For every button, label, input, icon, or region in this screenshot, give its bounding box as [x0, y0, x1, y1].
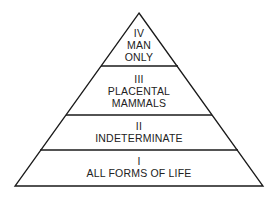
tier-2-label: II INDETERMINATE — [95, 120, 183, 144]
tier-3-numeral: III — [108, 73, 170, 85]
tier-3-line-1: PLACENTAL — [108, 85, 170, 97]
tier-3-line-2: MAMMALS — [108, 97, 170, 109]
tier-1-line-1: ALL FORMS OF LIFE — [86, 167, 191, 179]
tier-1-label: I ALL FORMS OF LIFE — [86, 155, 191, 179]
tier-3-label: III PLACENTAL MAMMALS — [108, 73, 170, 109]
tier-4-line-2: ONLY — [125, 51, 154, 63]
tier-4-numeral: IV — [125, 27, 154, 39]
tier-2-line-1: INDETERMINATE — [95, 132, 183, 144]
tier-4-label: IV MAN ONLY — [125, 27, 154, 63]
tier-2-numeral: II — [95, 120, 183, 132]
tier-1-numeral: I — [86, 155, 191, 167]
tier-4-line-1: MAN — [125, 39, 154, 51]
